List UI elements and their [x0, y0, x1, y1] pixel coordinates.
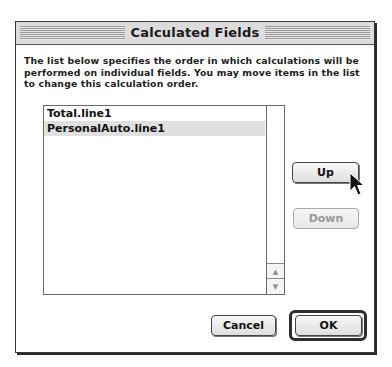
mouse-pointer-icon — [349, 172, 367, 198]
title-bar[interactable]: Calculated Fields — [16, 22, 374, 45]
scroll-up-button[interactable]: ▲ — [267, 263, 284, 279]
calculation-order-list[interactable]: Total.line1 PersonalAuto.line1 ▲ ▼ — [43, 105, 285, 295]
scroll-down-arrow-icon: ▼ — [273, 283, 278, 291]
scroll-up-arrow-icon: ▲ — [273, 268, 278, 276]
list-item-selected[interactable]: PersonalAuto.line1 — [44, 121, 265, 136]
dialog-title: Calculated Fields — [125, 22, 266, 44]
dialog-description: The list below specifies the order in wh… — [24, 55, 369, 90]
list-item[interactable]: Total.line1 — [44, 106, 265, 121]
down-button[interactable]: Down — [293, 208, 359, 229]
vertical-scrollbar[interactable]: ▲ ▼ — [266, 106, 284, 294]
scroll-down-button[interactable]: ▼ — [267, 278, 284, 294]
ok-button[interactable]: OK — [295, 315, 362, 336]
cancel-button[interactable]: Cancel — [211, 315, 276, 336]
list-items: Total.line1 PersonalAuto.line1 — [44, 106, 265, 136]
calculated-fields-dialog: Calculated Fields The list below specifi… — [15, 21, 375, 353]
